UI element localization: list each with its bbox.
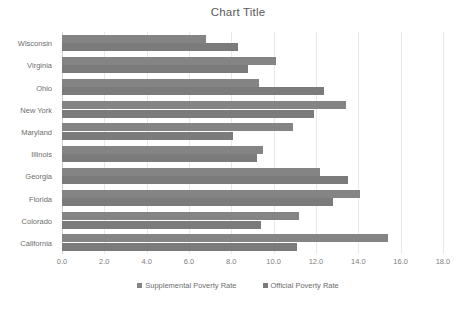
bar bbox=[62, 43, 238, 51]
bar bbox=[62, 212, 299, 220]
bar-chart: Chart Title WisconsinVirginiaOhioNew Yor… bbox=[0, 0, 476, 311]
value-axis-tick-label: 0.0 bbox=[57, 257, 67, 266]
bar bbox=[62, 234, 388, 242]
value-axis-tick-label: 6.0 bbox=[184, 257, 194, 266]
bar bbox=[62, 168, 320, 176]
category-axis-tick-label: Florida bbox=[0, 194, 52, 203]
bars-layer bbox=[62, 32, 443, 254]
bar-group bbox=[62, 99, 443, 121]
bar bbox=[62, 132, 233, 140]
bar bbox=[62, 198, 333, 206]
bar-group bbox=[62, 76, 443, 98]
value-axis-labels: 0.02.04.06.08.010.012.014.016.018.0 bbox=[62, 257, 443, 271]
category-axis-tick-label: Colorado bbox=[0, 216, 52, 225]
value-axis-tick-label: 12.0 bbox=[309, 257, 324, 266]
bar bbox=[62, 221, 261, 229]
bar bbox=[62, 243, 297, 251]
category-axis-tick-label: Georgia bbox=[0, 172, 52, 181]
category-axis-tick-label: New York bbox=[0, 105, 52, 114]
value-axis-tick-label: 16.0 bbox=[393, 257, 408, 266]
chart-legend: Supplemental Poverty RateOfficial Povert… bbox=[0, 281, 476, 290]
bar bbox=[62, 176, 348, 184]
bar bbox=[62, 101, 346, 109]
category-axis-tick-label: Maryland bbox=[0, 127, 52, 136]
bar bbox=[62, 57, 276, 65]
gridline bbox=[443, 32, 444, 254]
bar bbox=[62, 79, 259, 87]
value-axis-tick-label: 2.0 bbox=[99, 257, 109, 266]
bar-group bbox=[62, 165, 443, 187]
bar-group bbox=[62, 54, 443, 76]
bar-group bbox=[62, 121, 443, 143]
bar bbox=[62, 110, 314, 118]
value-axis-tick-label: 4.0 bbox=[141, 257, 151, 266]
bar-group bbox=[62, 232, 443, 254]
legend-swatch-icon bbox=[263, 283, 268, 288]
bar bbox=[62, 65, 248, 73]
value-axis-tick-label: 18.0 bbox=[436, 257, 451, 266]
bar bbox=[62, 35, 206, 43]
bar bbox=[62, 87, 324, 95]
bar-group bbox=[62, 32, 443, 54]
bar-group bbox=[62, 210, 443, 232]
value-axis-tick-label: 10.0 bbox=[266, 257, 281, 266]
bar-group bbox=[62, 187, 443, 209]
bar bbox=[62, 146, 263, 154]
legend-entry[interactable]: Supplemental Poverty Rate bbox=[137, 281, 236, 290]
category-axis-tick-label: Virginia bbox=[0, 61, 52, 70]
plot-area bbox=[62, 32, 443, 254]
category-axis-tick-label: Wisconsin bbox=[0, 39, 52, 48]
category-axis-labels: WisconsinVirginiaOhioNew YorkMarylandIll… bbox=[0, 32, 58, 254]
bar bbox=[62, 190, 360, 198]
bar-group bbox=[62, 143, 443, 165]
category-axis-tick-label: Ohio bbox=[0, 83, 52, 92]
bar bbox=[62, 123, 293, 131]
legend-entry[interactable]: Official Poverty Rate bbox=[263, 281, 339, 290]
value-axis-tick-label: 14.0 bbox=[351, 257, 366, 266]
chart-title: Chart Title bbox=[0, 6, 476, 18]
category-axis-tick-label: California bbox=[0, 238, 52, 247]
category-axis-tick-label: Illinois bbox=[0, 150, 52, 159]
bar bbox=[62, 154, 257, 162]
legend-swatch-icon bbox=[137, 283, 142, 288]
value-axis-tick-label: 8.0 bbox=[226, 257, 236, 266]
legend-label: Official Poverty Rate bbox=[271, 281, 339, 290]
legend-label: Supplemental Poverty Rate bbox=[145, 281, 236, 290]
